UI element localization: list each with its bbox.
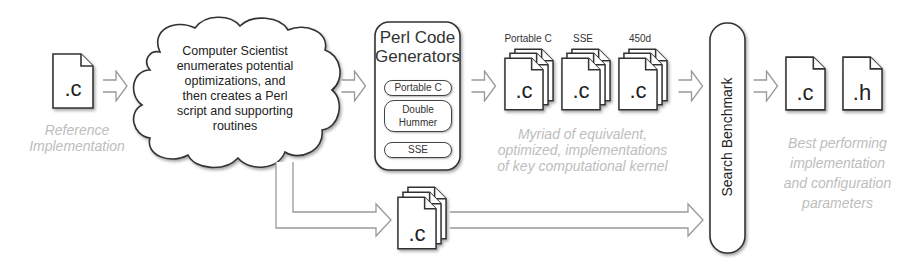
file-ext-text: .c — [796, 80, 813, 105]
caption-line: Reference — [22, 122, 132, 138]
generator-portable-c: Portable C — [384, 80, 452, 96]
generator-double-hummer: Double Hummer — [384, 100, 452, 132]
implementations-caption: Myriad of equivalent, optimized, impleme… — [480, 126, 685, 174]
file-ext-text: .h — [853, 80, 871, 105]
caption-line: parameters — [770, 193, 905, 213]
caption-line: of key computational kernel — [480, 158, 685, 174]
caption-line: Implementation — [22, 138, 132, 154]
caption-line: implementation — [770, 153, 905, 173]
arrow-icon — [679, 71, 703, 101]
caption-line: Best performing — [770, 133, 905, 153]
file-ext-text: .c — [64, 76, 81, 101]
cloud-text: Computer Scientist enumerates potential … — [150, 44, 320, 134]
cloud-line: script and supporting — [150, 104, 320, 119]
caption-line: and configuration — [770, 173, 905, 193]
cloud-line: routines — [150, 119, 320, 134]
cloud-line: Computer Scientist — [150, 44, 320, 59]
file-ext-text: .c — [408, 221, 425, 246]
cloud-line: enumerates potential — [150, 59, 320, 74]
file-ext-text: .c — [515, 78, 532, 103]
title-line: Generators — [375, 47, 460, 66]
arrow-icon — [103, 71, 127, 101]
reference-caption: Reference Implementation — [22, 122, 132, 154]
output-caption: Best performing implementation and confi… — [770, 133, 905, 213]
generators-title: Perl Code Generators — [375, 28, 460, 66]
search-benchmark-label: Search Benchmark — [717, 77, 737, 197]
arrow-icon — [342, 71, 366, 101]
generator-label: Portable C — [394, 82, 441, 93]
caption-line: optimized, implementations — [480, 142, 685, 158]
generator-label: Double — [385, 103, 451, 116]
arrow-icon — [754, 71, 778, 101]
generator-sse: SSE — [384, 142, 452, 158]
stack-label-450d: 450d — [617, 33, 663, 44]
stack-label-portable-c: Portable C — [500, 33, 556, 44]
arrow-icon — [472, 71, 496, 101]
long-arrow-icon — [450, 204, 703, 236]
stack-label-sse: SSE — [560, 33, 606, 44]
cloud-line: optimizations, and — [150, 74, 320, 89]
generator-label: SSE — [408, 144, 428, 155]
title-line: Perl Code — [375, 28, 460, 47]
cloud-line: then creates a Perl — [150, 89, 320, 104]
bottom-l-arrow-icon — [276, 162, 391, 236]
generator-label: Hummer — [385, 116, 451, 129]
caption-line: Myriad of equivalent, — [480, 126, 685, 142]
file-ext-text: .c — [629, 78, 646, 103]
file-ext-text: .c — [572, 78, 589, 103]
